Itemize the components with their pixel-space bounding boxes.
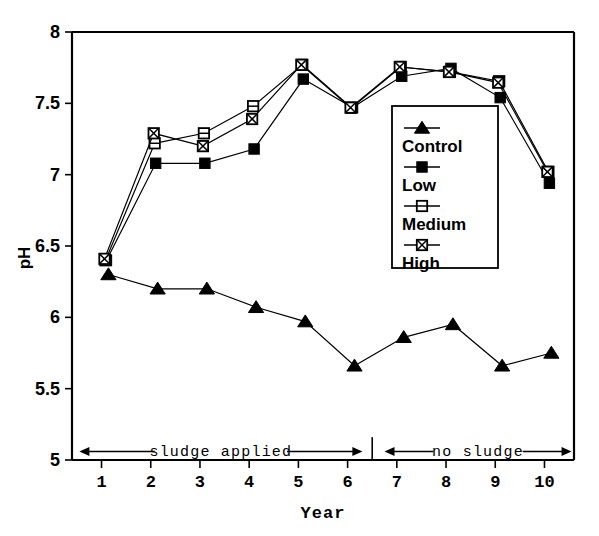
legend-label-low: Low xyxy=(402,176,437,195)
data-point-control-7 xyxy=(396,331,411,343)
annotation-arrowhead-left xyxy=(385,447,395,456)
y-tick-label: 8 xyxy=(50,22,60,42)
x-axis-title: Year xyxy=(301,504,346,523)
x-tick-label: 3 xyxy=(195,473,205,492)
y-tick-label: 7 xyxy=(50,165,60,185)
data-point-control-2 xyxy=(150,282,165,294)
y-tick-label: 6 xyxy=(50,307,60,327)
data-point-control-3 xyxy=(199,282,214,294)
y-tick-label: 5 xyxy=(50,450,60,470)
x-tick-label: 6 xyxy=(343,473,353,492)
legend-marker-low xyxy=(417,162,427,172)
legend-label-medium: Medium xyxy=(402,215,466,234)
series-line-control xyxy=(108,275,551,366)
x-tick-label: 5 xyxy=(293,473,303,492)
data-point-low-3 xyxy=(200,158,210,168)
data-point-low-10 xyxy=(544,178,554,188)
x-tick-label: 8 xyxy=(441,473,451,492)
y-tick-label: 7.5 xyxy=(35,93,60,113)
data-point-low-5 xyxy=(298,74,308,84)
data-point-low-4 xyxy=(249,144,259,154)
ph-line-chart: 55.566.577.58 12345678910 pH Year sludge… xyxy=(0,0,599,536)
data-point-low-2 xyxy=(150,158,160,168)
data-point-control-1 xyxy=(101,268,116,280)
chart-canvas: 55.566.577.58 12345678910 pH Year sludge… xyxy=(0,0,599,536)
data-point-control-10 xyxy=(544,346,559,358)
annotation-arrowhead-right xyxy=(352,447,362,456)
x-tick-label: 2 xyxy=(146,473,156,492)
annotation-arrowhead-left xyxy=(79,447,89,456)
data-point-control-8 xyxy=(445,318,460,330)
x-tick-label: 4 xyxy=(244,473,254,492)
y-tick-label: 6.5 xyxy=(35,236,60,256)
annotation-arrowhead-right xyxy=(562,447,572,456)
series-control xyxy=(101,268,559,371)
legend: ControlLowMediumHigh xyxy=(392,106,498,273)
x-tick-label: 10 xyxy=(534,473,554,492)
x-tick-label: 9 xyxy=(490,473,500,492)
axis-annotations: sludge appliedno sludge xyxy=(79,437,571,461)
annotation-span: sludge applied xyxy=(79,444,362,461)
y-axis-ticks: 55.566.577.58 xyxy=(35,22,72,470)
y-axis-title: pH xyxy=(15,247,34,270)
legend-label-high: High xyxy=(402,254,440,273)
annotation-label: sludge applied xyxy=(149,444,292,461)
data-point-control-4 xyxy=(248,301,263,313)
data-point-control-5 xyxy=(298,315,313,327)
legend-label-control: Control xyxy=(402,137,462,156)
annotation-label: no sludge xyxy=(432,444,524,461)
x-tick-label: 7 xyxy=(392,473,402,492)
y-tick-label: 5.5 xyxy=(35,379,60,399)
annotation-span: no sludge xyxy=(385,444,572,461)
x-tick-label: 1 xyxy=(96,473,106,492)
x-axis-ticks: 12345678910 xyxy=(96,460,554,492)
